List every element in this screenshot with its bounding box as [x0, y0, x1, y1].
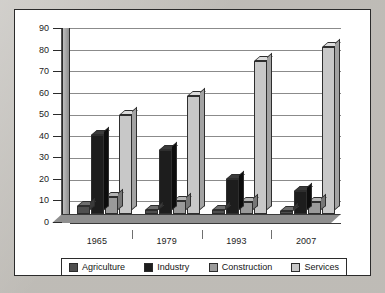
- bar-industry-1993[interactable]: [226, 179, 239, 214]
- bar-face: [77, 206, 90, 214]
- y-tick-mark-70: [53, 71, 62, 72]
- bar-face: [226, 179, 239, 214]
- x-tick-label-1965: 1965: [87, 236, 107, 246]
- plot-wall: [61, 28, 341, 223]
- bar-side: [200, 88, 205, 210]
- y-tick-label-10: 10: [39, 195, 49, 205]
- legend-item-agriculture[interactable]: Agriculture: [69, 262, 125, 272]
- legend-swatch-icon: [291, 263, 300, 272]
- plot-floor-front: [52, 214, 341, 223]
- bar-group-1979: [139, 28, 207, 214]
- y-tick-label-70: 70: [39, 66, 49, 76]
- bar-side: [104, 127, 109, 210]
- y-tick-mark-0: [53, 222, 62, 223]
- y-tick-label-60: 60: [39, 88, 49, 98]
- legend-item-services[interactable]: Services: [291, 262, 339, 272]
- y-tick-label-90: 90: [39, 23, 49, 33]
- bar-side: [267, 53, 272, 210]
- bar-industry-2007[interactable]: [294, 191, 307, 214]
- y-tick-mark-30: [53, 157, 62, 158]
- y-tick-mark-40: [53, 136, 62, 137]
- y-tick-mark-60: [53, 93, 62, 94]
- bar-agriculture-1979[interactable]: [145, 210, 158, 214]
- x-tick-label-1993: 1993: [226, 236, 246, 246]
- bar-services-2007[interactable]: [322, 47, 335, 214]
- y-tick-label-50: 50: [39, 109, 49, 119]
- bar-services-1993[interactable]: [254, 61, 267, 214]
- y-tick-label-20: 20: [39, 174, 49, 184]
- x-tick-label-2007: 2007: [296, 236, 316, 246]
- y-tick-label-80: 80: [39, 45, 49, 55]
- bar-group-2007: [274, 28, 342, 214]
- bar-side: [172, 142, 177, 210]
- chart-legend: AgricultureIndustryConstructionServices: [61, 258, 347, 276]
- bar-side: [335, 38, 340, 210]
- bar-face: [212, 210, 225, 214]
- y-tick-label-40: 40: [39, 131, 49, 141]
- legend-swatch-icon: [144, 263, 153, 272]
- y-tick-mark-90: [53, 28, 62, 29]
- legend-label: Services: [304, 262, 339, 272]
- legend-swatch-icon: [209, 263, 218, 272]
- plot-area: 9080706050403020100: [53, 28, 341, 231]
- bars-layer: [71, 28, 341, 214]
- bar-face: [254, 61, 267, 214]
- page-background: 9080706050403020100 1965197919932007 Agr…: [0, 0, 385, 293]
- x-axis-divider: [132, 230, 133, 239]
- bar-face: [280, 211, 293, 214]
- y-tick-label-0: 0: [44, 217, 49, 227]
- x-tick-label-1979: 1979: [157, 236, 177, 246]
- bar-group-1993: [206, 28, 274, 214]
- bar-face: [145, 210, 158, 214]
- y-tick-mark-80: [53, 50, 62, 51]
- y-tick-mark-50: [53, 114, 62, 115]
- bar-agriculture-2007[interactable]: [280, 211, 293, 214]
- x-axis-tick-labels: 1965197919932007: [53, 234, 341, 250]
- chart-card: 9080706050403020100 1965197919932007 Agr…: [14, 9, 371, 276]
- legend-swatch-icon: [69, 263, 78, 272]
- bar-agriculture-1993[interactable]: [212, 210, 225, 214]
- bar-agriculture-1965[interactable]: [77, 206, 90, 214]
- legend-item-industry[interactable]: Industry: [144, 262, 189, 272]
- legend-label: Agriculture: [82, 262, 125, 272]
- bar-face: [322, 47, 335, 214]
- legend-item-construction[interactable]: Construction: [209, 262, 273, 272]
- legend-label: Industry: [157, 262, 189, 272]
- y-axis-3d-wall: [62, 28, 70, 223]
- bar-face: [294, 191, 307, 214]
- y-tick-mark-20: [53, 179, 62, 180]
- y-tick-label-30: 30: [39, 152, 49, 162]
- legend-label: Construction: [222, 262, 273, 272]
- bar-side: [239, 171, 244, 210]
- x-axis-divider: [271, 230, 272, 239]
- x-axis-divider: [202, 230, 203, 239]
- bar-group-1965: [71, 28, 139, 214]
- bar-side: [132, 107, 137, 210]
- bar-side: [307, 183, 312, 210]
- gridline-0: [70, 223, 341, 224]
- y-tick-mark-10: [53, 200, 62, 201]
